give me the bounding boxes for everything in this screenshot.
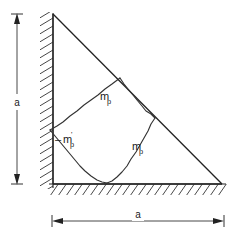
base-support-hatching: [50, 183, 227, 196]
wall-support-hatching: [38, 10, 53, 195]
moment-label-negative-prime: ': [71, 130, 73, 139]
width-dimension-arrow-right: [213, 218, 224, 224]
figure-container: m p – m ' p m p a: [0, 0, 237, 237]
yield-line-diagram: m p – m ' p m p a: [0, 0, 237, 237]
moment-label-lower-subscript: p: [139, 147, 143, 156]
moment-label-negative-subscript: p: [70, 140, 74, 149]
height-dimension-arrow-bottom: [14, 174, 20, 185]
slab-outline: [53, 14, 222, 184]
width-dimension: a: [52, 207, 224, 227]
moment-label-negative-sign: –: [55, 133, 62, 145]
height-dimension-arrow-top: [14, 13, 20, 24]
height-dimension: a: [11, 13, 23, 185]
moment-label-upper: m p: [100, 90, 111, 106]
width-dimension-label: a: [135, 209, 141, 220]
height-dimension-label: a: [14, 97, 20, 108]
moment-label-upper-subscript: p: [107, 97, 111, 106]
width-dimension-arrow-left: [52, 218, 63, 224]
yield-line-right: [107, 118, 155, 183]
moment-label-negative: – m ' p: [55, 130, 74, 149]
slab-edge-hypotenuse: [53, 14, 222, 184]
moment-labels: m p – m ' p m p: [55, 90, 143, 156]
